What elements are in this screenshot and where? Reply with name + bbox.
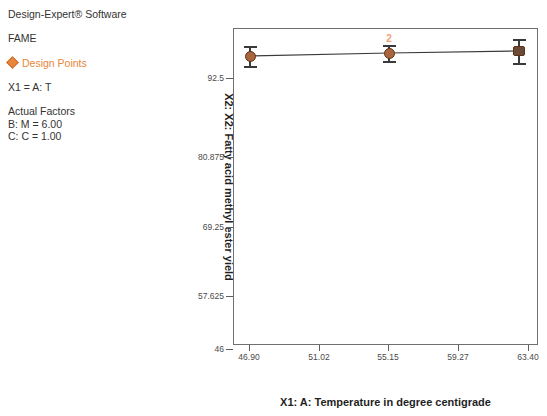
error-bar-cap-bottom <box>244 66 257 68</box>
y-tick-label: 80.875 <box>198 152 224 163</box>
error-bar-cap-top <box>513 39 526 41</box>
y-tick-mark <box>226 78 233 79</box>
plot-frame: 2 <box>233 28 538 345</box>
y-tick-mark <box>226 157 233 158</box>
x-tick-label: 55.15 <box>353 352 423 362</box>
design-point-marker[interactable] <box>513 46 525 56</box>
x-tick-label: 46.90 <box>214 352 284 362</box>
x-tick-label: 63.40 <box>493 352 547 362</box>
y-tick: 69.25 <box>186 222 233 233</box>
design-point-marker[interactable] <box>384 48 395 59</box>
x-tick-mark <box>458 345 459 351</box>
x-tick-mark <box>319 345 320 351</box>
error-bar-cap-top <box>383 45 396 47</box>
series-line <box>234 29 539 346</box>
x-axis-ticks: 46.90 51.02 55.15 59.27 63.40 <box>233 345 538 367</box>
y-tick-label: 57.625 <box>198 291 224 302</box>
error-bar-cap-bottom <box>513 63 526 65</box>
y-tick: 57.625 <box>186 291 233 302</box>
design-expert-plot-window: Design-Expert® Software FAME Design Poin… <box>0 0 547 416</box>
y-tick-label: 69.25 <box>203 222 224 233</box>
y-tick: 92.5 <box>186 73 233 84</box>
y-tick-mark <box>226 296 233 297</box>
y-tick-mark <box>226 227 233 228</box>
x-tick-mark <box>249 345 250 351</box>
error-bar-cap-bottom <box>383 61 396 63</box>
error-bar-cap-top <box>244 46 257 48</box>
y-tick: 80.875 <box>186 152 233 163</box>
design-point-marker[interactable] <box>245 51 256 62</box>
y-tick-mark <box>226 349 233 350</box>
design-point-count-label: 2 <box>379 33 399 44</box>
y-axis-ticks: 92.5 80.875 69.25 57.625 46 <box>186 28 233 345</box>
chart-area: X2: X2: Fatty acid methyl ester yield 92… <box>0 0 547 416</box>
x-tick-label: 59.27 <box>423 352 493 362</box>
x-axis-title: X1: A: Temperature in degree centigrade <box>233 396 538 408</box>
x-tick-mark <box>528 345 529 351</box>
x-tick-mark <box>388 345 389 351</box>
x-tick-label: 51.02 <box>284 352 354 362</box>
y-tick-label: 92.5 <box>207 73 224 84</box>
